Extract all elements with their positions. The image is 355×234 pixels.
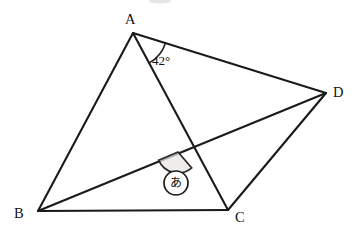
vertex-label-c: C (235, 209, 245, 225)
angle-label-42-degrees: 42° (152, 53, 170, 68)
segment-ab (38, 33, 133, 211)
angle-arc-shaded-at-intersection (159, 152, 192, 173)
geometry-figure: あ A B C D 42° (0, 0, 355, 234)
figure-canvas: あ A B C D 42° (0, 0, 355, 234)
scan-artifact (149, 0, 171, 4)
vertex-label-a: A (125, 11, 136, 27)
segment-bc (38, 210, 228, 211)
circled-marker-label: あ (170, 176, 182, 190)
vertex-label-b: B (14, 205, 24, 221)
segment-cd (228, 93, 326, 210)
vertex-label-d: D (333, 84, 343, 100)
